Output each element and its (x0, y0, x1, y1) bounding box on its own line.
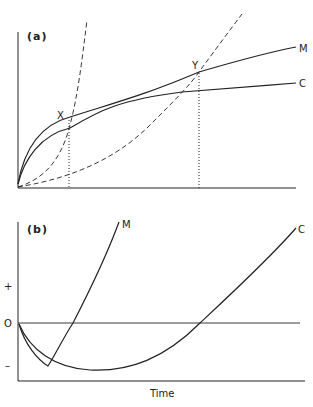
curve-b-c-label: C (298, 224, 305, 235)
panel-a-label: (a) (27, 30, 47, 43)
point-y-label: Y (191, 60, 199, 71)
point-x-label: X (57, 110, 64, 121)
tick-plus-label: + (4, 281, 12, 292)
tick-zero-label: O (4, 318, 12, 329)
panel-a (18, 14, 296, 188)
curve-b-c (19, 228, 296, 370)
curve-b-m (19, 222, 119, 366)
panel-b-label: (b) (27, 223, 48, 236)
curve-a-c-label: C (299, 78, 306, 89)
curve-a-m-label: M (299, 43, 308, 54)
curve-b-m-label: M (122, 219, 131, 230)
curve-a-dashed-steep (18, 20, 87, 187)
x-axis-title: Time (149, 388, 174, 399)
figure: (a) X Y M C (b) M C + O – Time (0, 0, 313, 407)
curve-a-c (18, 83, 296, 184)
panel-b (18, 222, 305, 381)
tick-minus-label: – (5, 360, 10, 371)
curve-a-dashed-gradual (18, 14, 242, 187)
